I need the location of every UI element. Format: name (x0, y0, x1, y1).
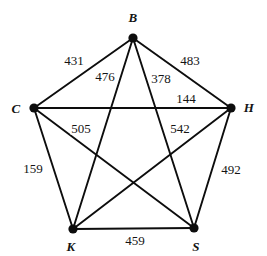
vertex-layer (29, 33, 235, 233)
edge-weight-bh: 483 (179, 54, 201, 67)
vertex-label-c: C (12, 102, 21, 115)
edge-weight-bk: 476 (94, 70, 116, 83)
edge-weight-hk: 542 (169, 122, 191, 135)
edge-weight-ks: 459 (124, 234, 146, 247)
graph-edge-ks (73, 228, 194, 229)
graph-edge-hk (73, 108, 231, 229)
graph-vertex-k (68, 224, 77, 233)
edge-weight-ch: 144 (175, 92, 197, 105)
edge-weight-ck: 159 (22, 162, 44, 175)
vertex-label-h: H (244, 101, 254, 114)
edge-weight-hs: 492 (220, 163, 242, 176)
vertex-label-s: S (192, 240, 199, 253)
graph-vertex-b (128, 33, 137, 42)
vertex-label-b: B (129, 11, 138, 24)
graph-vertex-h (226, 103, 235, 112)
graph-vertex-s (189, 223, 198, 232)
weighted-graph-figure: 431483476378144505542159492459 BCHKS (0, 0, 267, 256)
edge-weight-bc: 431 (63, 54, 85, 67)
graph-edge-bc (34, 38, 133, 108)
edge-weight-cs: 505 (70, 122, 92, 135)
graph-vertex-c (29, 103, 38, 112)
edge-weight-bs: 378 (150, 72, 172, 85)
graph-canvas (0, 0, 267, 256)
vertex-label-k: K (67, 240, 76, 253)
